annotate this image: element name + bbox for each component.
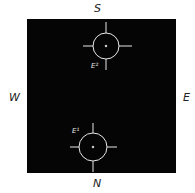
markers-overlay xyxy=(0,0,195,193)
upper-marker-label: E² xyxy=(91,63,98,70)
lower-marker-label: E¹ xyxy=(72,128,79,135)
